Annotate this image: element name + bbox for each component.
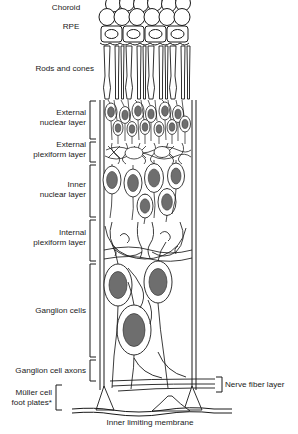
label-rods-and-cones: Rods and cones	[14, 64, 94, 74]
label-rpe: RPE	[48, 22, 94, 32]
photoreceptor-nucleus	[115, 124, 121, 132]
rod-outer-segment	[143, 46, 146, 99]
label-nerve-fiber-layer: Nerve fiber layer	[225, 380, 297, 390]
axon-bundle-line	[118, 388, 215, 391]
amacrine-cell-nucleus	[162, 194, 173, 210]
bracket-internal-plexiform-layer	[90, 220, 96, 261]
bipolar-cell-nucleus	[128, 174, 139, 191]
synaptic-hook	[120, 234, 129, 244]
rpe-nucleus	[127, 30, 140, 39]
cone-outer-segment	[148, 46, 155, 99]
photoreceptor-nucleus	[148, 109, 154, 119]
muller-foot-plate-group	[96, 386, 202, 411]
rpe-nucleus	[171, 30, 184, 39]
bracket-ganglion-cell-axons	[90, 360, 96, 381]
ganglion-cell-layer-group	[104, 242, 172, 389]
label-external-nuclear-layer: External nuclear layer	[14, 108, 86, 127]
label-inner-limiting-membrane: Inner limiting membrane	[62, 418, 238, 428]
bracket-external-nuclear-layer	[90, 101, 96, 139]
rod-outer-segment	[115, 46, 119, 99]
bipolar-dendrite	[178, 143, 183, 164]
rpe-nucleus	[149, 30, 162, 39]
label-external-plexiform-layer: External plexiform layer	[6, 140, 86, 159]
rpe-layer-group	[100, 26, 189, 45]
ganglion-cell-nucleus	[123, 314, 145, 347]
photoreceptor-nucleus	[175, 109, 181, 119]
amacrine-cell-nucleus	[140, 199, 150, 213]
label-inner-nuclear-layer: Inner nuclear layer	[14, 180, 86, 199]
amacrine-arbor	[152, 222, 183, 256]
label-choroid: Choroid	[38, 3, 94, 13]
rod-outer-segment	[159, 46, 163, 99]
bracket-ganglion-cells	[90, 264, 96, 357]
bracket-nerve-fiber-layer	[216, 377, 222, 392]
cone-outer-segment	[170, 46, 177, 99]
photoreceptor-nucleus	[182, 120, 188, 129]
photoreceptor-nucleus	[135, 106, 142, 116]
bipolar-cell-nucleus	[171, 168, 181, 184]
cone-outer-segment	[126, 46, 133, 99]
horizontal-cell-soma	[125, 147, 143, 159]
rod-outer-segment	[121, 46, 124, 99]
horizontal-cell-process	[106, 147, 191, 153]
photoreceptor-nucleus	[122, 110, 128, 120]
photoreceptor-nucleus	[142, 123, 148, 131]
external-nuclear-layer-group	[105, 100, 191, 144]
rod-outer-segment	[181, 46, 185, 99]
label-muller-cell-foot-plates: Müller cell foot plates*	[0, 388, 52, 407]
rpe-nucleus	[105, 30, 118, 39]
photoreceptor-nucleus	[169, 123, 175, 131]
retina-body-outline	[100, 100, 196, 390]
label-ganglion-cells: Ganglion cells	[10, 306, 86, 316]
rod-outer-segment	[137, 46, 141, 99]
horizontal-cell-soma	[154, 147, 170, 158]
axon-bundle-line	[110, 379, 215, 381]
synaptic-hook	[160, 232, 170, 242]
axon-turn	[158, 352, 186, 377]
inner-limiting-membrane-line	[72, 412, 232, 416]
bipolar-cell-nucleus	[148, 169, 160, 187]
label-ganglion-cell-axons: Ganglion cell axons	[2, 366, 86, 376]
axon-turn	[134, 358, 162, 378]
rpe-basal-border	[100, 43, 189, 45]
muller-foot-plate	[96, 386, 114, 410]
internal-plexiform-layer-group	[104, 222, 192, 261]
rod-outer-segment	[187, 46, 190, 99]
photoreceptor-nucleus	[162, 106, 169, 116]
bipolar-cell-nucleus	[107, 171, 118, 188]
nerve-fiber-layer-group	[110, 352, 215, 391]
external-plexiform-layer-group	[105, 143, 191, 164]
bracket-external-plexiform-layer	[90, 142, 96, 162]
nerve-fiber-layer-bracket-group	[216, 377, 222, 392]
rods-and-cones-group	[104, 46, 191, 99]
bracket-muller-foot-plates	[56, 385, 62, 410]
inner-nuclear-layer-group	[103, 160, 185, 224]
rod-outer-segment	[165, 46, 168, 99]
label-internal-plexiform-layer: Internal plexiform layer	[6, 228, 86, 247]
choroid-group	[99, 0, 191, 26]
axon-bundle-line	[112, 384, 215, 386]
photoreceptor-nucleus	[156, 125, 162, 133]
ganglion-cell-nucleus	[109, 272, 127, 299]
photoreceptor-nucleus	[129, 125, 135, 133]
photoreceptor-nucleus	[108, 107, 115, 117]
bracket-inner-nuclear-layer	[90, 165, 96, 217]
muller-foot-plate	[184, 386, 202, 410]
cone-outer-segment	[104, 46, 111, 99]
ganglion-cell-nucleus	[149, 269, 167, 296]
amacrine-arbor	[105, 226, 186, 259]
